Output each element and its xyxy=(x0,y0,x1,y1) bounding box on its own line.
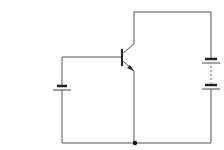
base-return-wire xyxy=(62,90,135,143)
collector-return-wire xyxy=(134,89,211,143)
base-wire xyxy=(62,57,121,86)
npn-transistor-icon xyxy=(122,12,134,143)
circuit-diagram xyxy=(0,0,224,150)
battery-left-icon xyxy=(53,86,71,90)
junction-dot-icon xyxy=(133,141,137,145)
battery-right-icon xyxy=(202,59,220,89)
base-circuit xyxy=(62,57,135,143)
collector-wire xyxy=(134,12,211,59)
